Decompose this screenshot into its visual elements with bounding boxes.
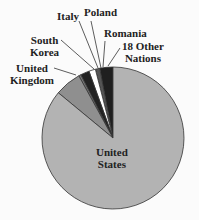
- label-other-line1: 18 Other: [122, 40, 164, 52]
- label-us-line2: States: [96, 158, 128, 170]
- label-other-line2: Nations: [122, 52, 164, 64]
- label-south-korea: South Korea: [30, 34, 59, 58]
- label-uk-line2: Kingdom: [10, 74, 54, 86]
- label-south-korea-line1: South: [30, 34, 59, 46]
- label-italy: Italy: [57, 10, 79, 22]
- label-poland: Poland: [84, 6, 117, 18]
- pie-chart: [0, 0, 199, 220]
- label-united-kingdom: United Kingdom: [10, 62, 54, 86]
- label-other-nations: 18 Other Nations: [122, 40, 164, 64]
- label-romania: Romania: [104, 27, 147, 39]
- label-uk-line1: United: [10, 62, 54, 74]
- label-us-line1: United: [96, 146, 128, 158]
- pie-slices: [42, 67, 184, 209]
- label-south-korea-line2: Korea: [30, 46, 59, 58]
- label-united-states: United States: [96, 146, 128, 170]
